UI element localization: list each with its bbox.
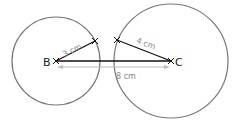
point-c-label: C: [175, 56, 183, 69]
bc-measure-label: 8 cm: [116, 72, 136, 81]
c-radius-label: 4 cm: [135, 36, 157, 52]
cross-mark-b-arc: [92, 38, 98, 44]
measure-arrow-bc: [57, 65, 170, 69]
construction-diagram: B C 3 cm 4 cm 8 cm: [0, 0, 233, 123]
point-b-label: B: [43, 56, 51, 69]
b-radius-label: 3 cm: [61, 42, 83, 59]
